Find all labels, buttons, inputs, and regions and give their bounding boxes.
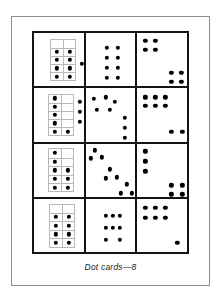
dot bbox=[153, 216, 157, 220]
dot bbox=[104, 214, 108, 218]
dot bbox=[180, 183, 184, 187]
dot bbox=[180, 130, 184, 134]
dot bbox=[104, 237, 108, 241]
ten-frame-divider bbox=[61, 149, 62, 191]
dot bbox=[116, 46, 120, 50]
dot bbox=[175, 240, 179, 244]
dot-card-grid bbox=[32, 31, 189, 254]
dot bbox=[104, 225, 108, 229]
dot bbox=[92, 97, 96, 101]
ten-frame-divider bbox=[51, 56, 75, 57]
dot bbox=[119, 191, 123, 195]
dot bbox=[179, 80, 183, 84]
ten-frame-divider bbox=[49, 111, 73, 112]
ten-frame-divider bbox=[49, 119, 73, 120]
dot-card bbox=[137, 88, 187, 141]
dot bbox=[143, 39, 147, 43]
dot bbox=[118, 214, 122, 218]
ten-frame-divider bbox=[50, 221, 74, 222]
dot bbox=[169, 130, 173, 134]
dot-card bbox=[137, 199, 187, 252]
dot bbox=[78, 120, 82, 124]
dot bbox=[108, 108, 112, 112]
dot bbox=[163, 206, 167, 210]
dot bbox=[118, 225, 122, 229]
dot bbox=[113, 100, 117, 104]
dot bbox=[153, 104, 157, 108]
dot bbox=[105, 76, 109, 80]
dot bbox=[116, 56, 120, 60]
dot bbox=[163, 104, 167, 108]
dot bbox=[143, 48, 147, 52]
dot-card bbox=[86, 33, 136, 86]
dot-card bbox=[34, 199, 84, 252]
ten-frame-divider bbox=[51, 72, 75, 73]
dot bbox=[153, 48, 157, 52]
dot bbox=[153, 206, 157, 210]
figure-caption: Dot cards—8 bbox=[0, 262, 221, 272]
dot bbox=[153, 39, 157, 43]
dot bbox=[104, 95, 108, 99]
dot bbox=[115, 175, 119, 179]
dot bbox=[169, 71, 173, 75]
dot bbox=[179, 71, 183, 75]
dot bbox=[78, 100, 82, 104]
dot bbox=[80, 62, 84, 66]
ten-frame-divider bbox=[61, 95, 62, 135]
dot bbox=[143, 159, 147, 163]
dot bbox=[163, 95, 167, 99]
dot bbox=[143, 169, 147, 173]
dot-card bbox=[137, 144, 187, 197]
dot bbox=[111, 225, 115, 229]
dot bbox=[118, 237, 122, 241]
ten-frame-divider bbox=[62, 205, 63, 247]
dot bbox=[163, 216, 167, 220]
dot bbox=[143, 216, 147, 220]
dot bbox=[143, 95, 147, 99]
ten-frame-divider bbox=[63, 40, 64, 80]
dot bbox=[89, 156, 93, 160]
dot-card bbox=[86, 199, 136, 252]
dot-cards-figure: Dot cards—8 bbox=[0, 0, 221, 301]
dot bbox=[123, 126, 127, 130]
dot bbox=[180, 192, 184, 196]
dot bbox=[78, 110, 82, 114]
dot bbox=[116, 66, 120, 70]
dot bbox=[111, 214, 115, 218]
dot-card bbox=[34, 33, 84, 86]
dot bbox=[143, 104, 147, 108]
dot-card bbox=[86, 144, 136, 197]
dot bbox=[143, 149, 147, 153]
dot bbox=[143, 206, 147, 210]
dot bbox=[105, 66, 109, 70]
ten-frame-divider bbox=[51, 64, 75, 65]
dot bbox=[153, 95, 157, 99]
dot bbox=[104, 176, 108, 180]
dot-card bbox=[137, 33, 187, 86]
dot bbox=[100, 155, 104, 159]
dot bbox=[116, 76, 120, 80]
dot bbox=[123, 136, 127, 140]
dot bbox=[169, 192, 173, 196]
ten-frame-divider bbox=[50, 238, 74, 239]
dot bbox=[123, 116, 127, 120]
dot bbox=[108, 167, 112, 171]
dot bbox=[169, 183, 173, 187]
ten-frame-divider bbox=[49, 166, 73, 167]
dot bbox=[105, 46, 109, 50]
dot bbox=[169, 80, 173, 84]
dot bbox=[130, 191, 134, 195]
dot-card bbox=[86, 88, 136, 141]
dot-card bbox=[34, 144, 84, 197]
dot-card bbox=[34, 88, 84, 141]
ten-frame-divider bbox=[49, 175, 73, 176]
dot bbox=[105, 56, 109, 60]
dot bbox=[93, 148, 97, 152]
ten-frame-divider bbox=[49, 183, 73, 184]
dot bbox=[95, 108, 99, 112]
ten-frame-divider bbox=[50, 230, 74, 231]
dot bbox=[125, 182, 129, 186]
ten-frame-divider bbox=[49, 127, 73, 128]
